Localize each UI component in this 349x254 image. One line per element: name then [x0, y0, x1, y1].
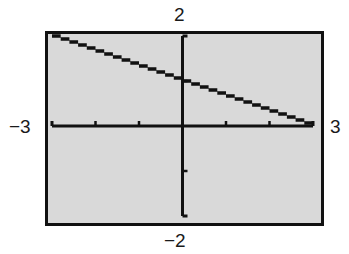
- graph-screen: [0, 0, 349, 254]
- ymin-label: −2: [164, 231, 186, 250]
- xmax-label: 3: [330, 117, 341, 136]
- xmin-label: −3: [9, 117, 31, 136]
- ymax-label: 2: [174, 5, 185, 24]
- screen-background: [47, 33, 323, 225]
